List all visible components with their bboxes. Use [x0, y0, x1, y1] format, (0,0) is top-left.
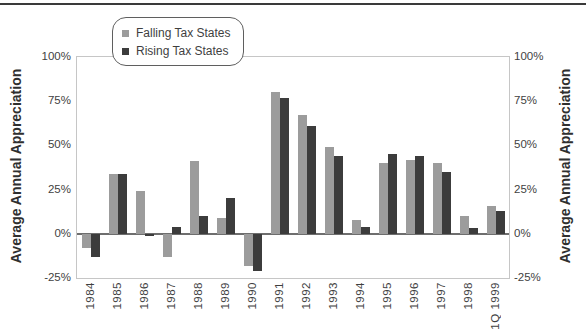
legend-label: Rising Tax States: [136, 44, 229, 58]
bar-1991-rising: [280, 98, 289, 234]
y-tick-label-right: 0%: [514, 227, 574, 239]
legend-label: Falling Tax States: [136, 26, 231, 40]
chart-figure: Falling Tax States Rising Tax States Ave…: [0, 0, 586, 330]
y-tick-label-left: 75%: [0, 94, 71, 106]
bar-1991-falling: [271, 92, 280, 233]
x-tick-label: 1996: [400, 282, 427, 330]
legend-item: Falling Tax States: [122, 24, 243, 42]
y-tick-label-right: 25%: [514, 183, 574, 195]
x-tick-label: 1988: [184, 282, 211, 330]
y-tick-label-left: 0%: [0, 227, 71, 239]
bar-1984-falling: [82, 234, 91, 248]
bar-1986-rising: [145, 234, 154, 236]
bar-1997-falling: [433, 163, 442, 234]
x-tick-label: 1987: [157, 282, 184, 330]
bar-1989-rising: [226, 198, 235, 233]
y-tick-label-left: 25%: [0, 183, 71, 195]
bar-1998-rising: [469, 228, 478, 233]
x-tick-label: 1985: [103, 282, 130, 330]
bar-1984-rising: [91, 234, 100, 257]
bar-1994-falling: [352, 220, 361, 234]
x-tick-label: 1991: [265, 282, 292, 330]
x-tick-label: 1994: [346, 282, 373, 330]
bar-1990-rising: [253, 234, 262, 271]
bar-1987-falling: [163, 234, 172, 257]
x-tick-label: 1Q 1999: [481, 282, 508, 330]
bar-1996-rising: [415, 156, 424, 234]
legend-item: Rising Tax States: [122, 42, 243, 60]
bar-1997-rising: [442, 172, 451, 234]
bar-1995-rising: [388, 154, 397, 234]
bar-1992-rising: [307, 126, 316, 234]
y-tick-label-right: -25%: [514, 271, 574, 283]
bar-1989-falling: [217, 218, 226, 234]
bar-1985-falling: [109, 174, 118, 234]
falling-tax-states-swatch-icon: [122, 30, 129, 37]
x-tick-label: 1986: [130, 282, 157, 330]
rising-tax-states-swatch-icon: [122, 48, 129, 55]
bar-1Q-1999-rising: [496, 211, 505, 234]
plot-area: [76, 56, 510, 279]
y-tick-label-left: 50%: [0, 138, 71, 150]
x-tick-label: 1993: [319, 282, 346, 330]
bar-1986-falling: [136, 191, 145, 233]
bar-1988-rising: [199, 216, 208, 234]
bar-1990-falling: [244, 234, 253, 266]
x-tick-label: 1984: [76, 282, 103, 330]
x-axis-labels: 1984198519861987198819891990199119921993…: [76, 282, 508, 330]
bar-1993-rising: [334, 156, 343, 234]
y-tick-label-left: -25%: [0, 271, 71, 283]
bar-1993-falling: [325, 147, 334, 234]
top-divider-rule: [0, 3, 586, 5]
y-tick-label-left: 100%: [0, 50, 71, 62]
x-tick-label: 1990: [238, 282, 265, 330]
bar-1998-falling: [460, 216, 469, 234]
bar-1988-falling: [190, 161, 199, 233]
x-tick-label: 1997: [427, 282, 454, 330]
legend: Falling Tax States Rising Tax States: [112, 17, 244, 66]
y-tick-label-right: 50%: [514, 138, 574, 150]
x-tick-label: 1992: [292, 282, 319, 330]
y-tick-label-right: 75%: [514, 94, 574, 106]
x-tick-label: 1995: [373, 282, 400, 330]
x-tick-label: 1998: [454, 282, 481, 330]
bar-1985-rising: [118, 174, 127, 234]
bar-1995-falling: [379, 163, 388, 234]
x-tick-label: 1989: [211, 282, 238, 330]
bar-1992-falling: [298, 115, 307, 233]
bar-1Q-1999-falling: [487, 206, 496, 234]
y-tick-label-right: 100%: [514, 50, 574, 62]
bar-1996-falling: [406, 160, 415, 234]
bar-1994-rising: [361, 227, 370, 234]
bar-1987-rising: [172, 227, 181, 234]
